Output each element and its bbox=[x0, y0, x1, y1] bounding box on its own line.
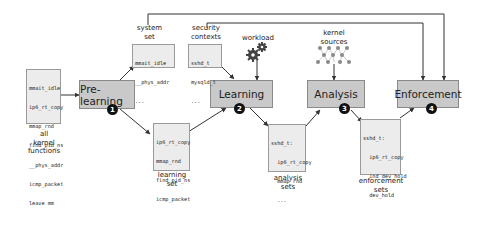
list-item: ... bbox=[135, 98, 172, 104]
step-badge-3: 3 bbox=[339, 103, 350, 114]
list-item: ip6_rt_copy bbox=[156, 139, 187, 145]
list-item: leave_mm bbox=[29, 200, 58, 206]
stage-analysis: Analysis bbox=[307, 80, 365, 108]
list-item: ip6_rt_copy bbox=[363, 154, 398, 160]
list-item: mmait_idle bbox=[29, 85, 58, 91]
system-set-label: system set bbox=[127, 24, 172, 41]
stage-pre-learning: Pre-learning bbox=[79, 80, 135, 109]
list-item: mmait_idle bbox=[135, 60, 172, 66]
stage-label: Learning bbox=[219, 88, 265, 100]
learning-set-label: learning set bbox=[150, 171, 194, 188]
stage-label: Analysis bbox=[314, 88, 357, 100]
step-badge-2: 2 bbox=[234, 103, 245, 114]
list-item: icmp_packet bbox=[156, 196, 187, 202]
list-item: mmap_rnd bbox=[156, 158, 187, 164]
list-item: ip6_rt_copy bbox=[271, 159, 303, 165]
list-item: sshd_t bbox=[191, 60, 219, 66]
list-item: icmp_packet bbox=[29, 181, 58, 187]
analysis-sets-label: analysis sets bbox=[266, 174, 310, 191]
analysis-sets-list: sshd_t: ip6_rt_copy mmap_rnd ... mysqld_… bbox=[268, 124, 306, 172]
enforcement-sets-list: sshd_t: ip6_rt_copy ind_dev_hold dev_hol… bbox=[360, 119, 401, 175]
list-item: sshd_t: bbox=[363, 135, 398, 141]
list-item: __phys_addr bbox=[29, 162, 58, 168]
list-item: sshd_t: bbox=[271, 140, 303, 146]
security-contexts-list: sshd_t mysqld_t ... bbox=[188, 44, 222, 68]
list-item: __phys_addr bbox=[135, 79, 172, 85]
all-kernel-functions-label: all kernel functions bbox=[20, 130, 68, 156]
gears-icon bbox=[246, 42, 267, 62]
stage-label: Enforcement bbox=[394, 88, 461, 100]
step-badge-1: 1 bbox=[107, 104, 118, 115]
kernel-sources-label: kernel sources bbox=[313, 29, 355, 46]
list-item: ... bbox=[271, 197, 303, 203]
workload-label: workload bbox=[238, 34, 278, 43]
stage-label: Pre-learning bbox=[80, 83, 134, 107]
graph-nodes-icon bbox=[316, 46, 351, 64]
all-kernel-functions-list: mmait_idle ip6_rt_copy mmap_rnd find_pid… bbox=[26, 69, 61, 124]
list-item: mmap_rnd bbox=[29, 123, 58, 129]
list-item: ... bbox=[191, 98, 219, 104]
list-item: ip6_rt_copy bbox=[29, 104, 58, 110]
list-item: mysqld_t bbox=[191, 79, 219, 85]
security-contexts-label: security contexts bbox=[182, 24, 230, 41]
system-set-list: mmait_idle __phys_addr ... bbox=[132, 44, 175, 68]
enforcement-sets-label: enforcement sets bbox=[354, 177, 408, 194]
learning-set-list: ip6_rt_copy mmap_rnd find_pid_ns icmp_pa… bbox=[153, 123, 190, 171]
step-badge-4: 4 bbox=[426, 103, 437, 114]
